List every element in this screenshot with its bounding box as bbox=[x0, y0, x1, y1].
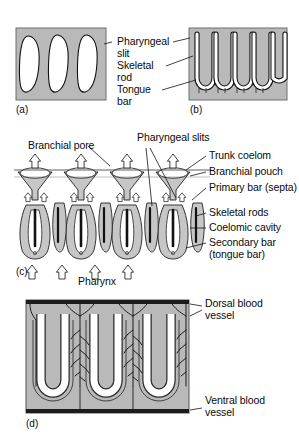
ventral-vessel-band bbox=[26, 409, 189, 413]
leader-dorsal-vessel-2 bbox=[190, 310, 202, 316]
branchial-unit bbox=[110, 168, 144, 259]
label-branchial-pore: Branchial pore bbox=[28, 140, 94, 152]
label-skeletal-rods: Skeletal rods bbox=[209, 207, 268, 219]
label-primary-bar-septa: Primary bar (septa) bbox=[209, 182, 297, 194]
leader-lines-d bbox=[190, 304, 202, 410]
label-dorsal-blood-vessel: Dorsal blood vessel bbox=[205, 298, 263, 321]
label-ventral-blood-vessel: Ventral blood vessel bbox=[205, 395, 265, 418]
label-pharyngeal-slit: Pharyngeal slit bbox=[117, 36, 169, 59]
panel-b-graphic bbox=[189, 28, 287, 100]
panel-tag-d: (d) bbox=[26, 418, 38, 429]
branchial-unit bbox=[18, 168, 52, 259]
leader-branchial-pouch bbox=[190, 172, 206, 176]
leader-trunk-coelom bbox=[186, 156, 206, 170]
label-secondary-bar: Secondary bar (tongue bar) bbox=[209, 237, 276, 260]
label-pharyngeal-slits: Pharyngeal slits bbox=[137, 132, 210, 144]
figure-root: Pharyngeal slit Skeletal rod Tongue bar … bbox=[0, 0, 299, 447]
label-branchial-pouch: Branchial pouch bbox=[209, 166, 283, 178]
panel-tag-a: (a) bbox=[16, 104, 28, 115]
leader-dorsal-vessel bbox=[190, 304, 202, 306]
panel-d-graphic bbox=[26, 300, 189, 413]
panel-tag-c: (c) bbox=[16, 266, 28, 277]
dorsal-vessel-band bbox=[26, 300, 189, 304]
branchial-unit bbox=[156, 168, 190, 259]
label-pharynx: Pharynx bbox=[78, 276, 116, 288]
leader-ventral-vessel bbox=[190, 408, 202, 410]
leader-pharyngeal-slit-right bbox=[173, 38, 190, 42]
panel-a-graphic bbox=[16, 28, 106, 100]
panel-c-graphic bbox=[14, 154, 210, 279]
label-tongue-bar: Tongue bar bbox=[117, 84, 151, 107]
label-coelomic-cavity: Coelomic cavity bbox=[209, 222, 281, 234]
panel-tag-b: (b) bbox=[190, 104, 202, 115]
label-skeletal-rod: Skeletal rod bbox=[117, 60, 154, 83]
branchial-unit bbox=[64, 168, 98, 259]
label-trunk-coelom: Trunk coelom bbox=[209, 150, 271, 162]
leader-primary-bar bbox=[192, 188, 206, 200]
